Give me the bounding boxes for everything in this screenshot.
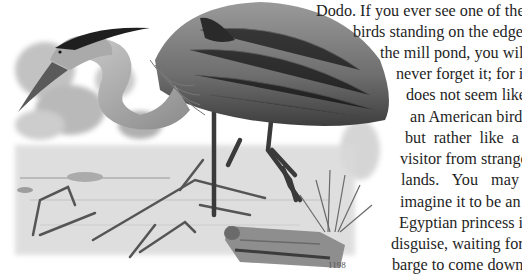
text-line: birds standing on the edge of <box>353 22 519 43</box>
text-line: Dodo. If you ever see one of these <box>316 1 519 22</box>
text-line: never forget it; for it <box>396 64 519 85</box>
text-line: Egyptian princess in <box>399 213 519 234</box>
artist-mark: 1198 <box>328 260 346 270</box>
text-line: visitor from strange <box>400 149 519 170</box>
text-line: but rather like a <box>405 128 519 149</box>
text-line: lands. You may <box>401 170 519 191</box>
text-line: an American bird, <box>410 107 519 128</box>
text-line: disguise, waiting for a <box>391 234 519 255</box>
text-line: barge to come down <box>392 255 519 276</box>
text-line: does not seem like <box>406 85 519 106</box>
text-line: imagine it to be an <box>400 192 519 213</box>
text-line: the mill pond, you will <box>380 43 519 64</box>
